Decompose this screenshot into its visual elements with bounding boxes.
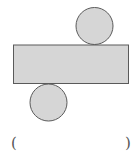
lateral-rectangle (14, 45, 129, 84)
top-circle-base (76, 8, 113, 45)
close-paren: ) (125, 136, 131, 151)
open-paren: ( (11, 136, 17, 151)
bottom-circle-base (30, 84, 67, 121)
cylinder-net-diagram (0, 0, 136, 154)
